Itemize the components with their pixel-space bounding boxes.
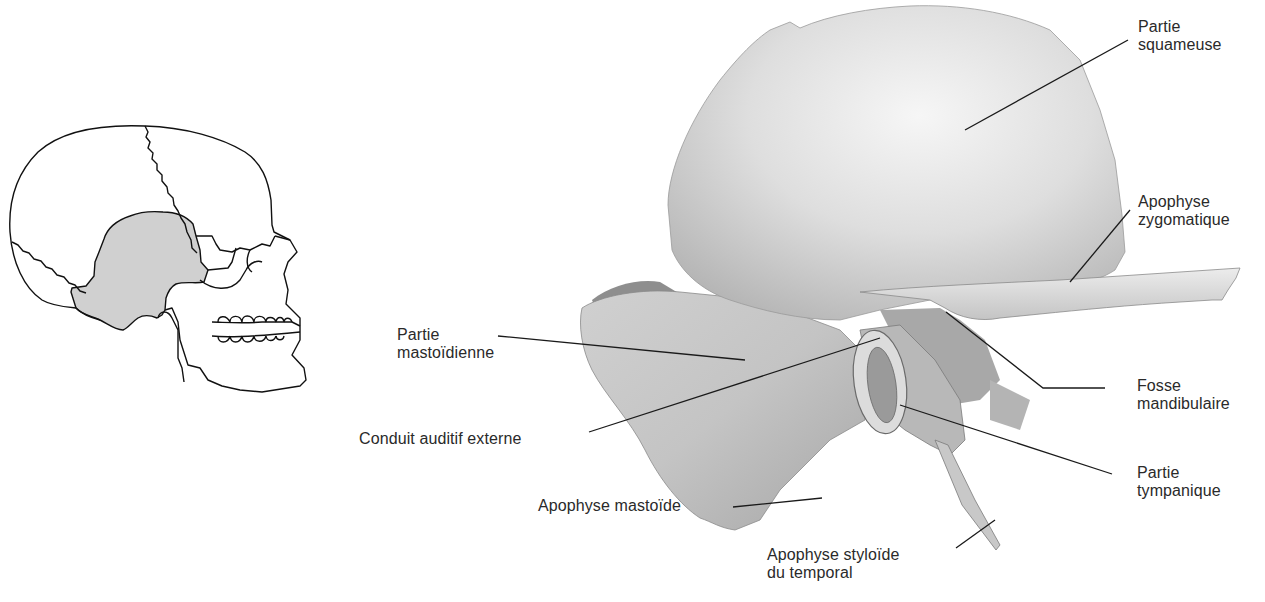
label-partie-mastoidienne: Partie mastoïdienne (397, 326, 494, 362)
temporal-bone-highlight (71, 212, 208, 330)
skull-thumbnail (10, 126, 306, 392)
label-fosse-mandibulaire: Fosse mandibulaire (1137, 377, 1230, 413)
figure-canvas: Partie squameuse Apophyse zygomatique Fo… (0, 0, 1265, 602)
label-apophyse-zygomatique: Apophyse zygomatique (1138, 193, 1230, 229)
label-apophyse-styloide: Apophyse styloïde du temporal (767, 546, 899, 582)
label-partie-squameuse: Partie squameuse (1138, 18, 1222, 54)
label-partie-tympanique: Partie tympanique (1137, 464, 1221, 500)
label-conduit-auditif-externe: Conduit auditif externe (359, 430, 521, 448)
label-apophyse-mastoide: Apophyse mastoïde (538, 497, 681, 515)
